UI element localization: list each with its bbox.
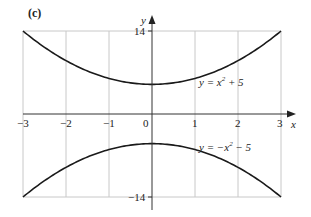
- y-axis-arrow-icon: [149, 15, 156, 24]
- y-tick-label-bottom: −14: [128, 191, 146, 203]
- x-tick-label: −2: [60, 117, 72, 129]
- x-tick-label: −1: [103, 117, 115, 129]
- eq-lower-rest: − 5: [233, 141, 252, 153]
- eq-upper-rest: + 5: [225, 76, 244, 88]
- panel-label: (c): [28, 6, 41, 20]
- eq-upper-base: y = x: [198, 76, 222, 88]
- equation-upper: y = x2 + 5: [198, 75, 244, 88]
- x-tick-label: −3: [17, 117, 29, 129]
- x-tick-label: 3: [277, 117, 283, 129]
- x-tick-label: 2: [235, 117, 241, 129]
- x-axis-arrow-icon: [287, 111, 296, 118]
- x-tick-label: 1: [192, 117, 198, 129]
- eq-lower-base: y = −x: [198, 141, 229, 153]
- chart: (c) y x 14 −14 −3 −2 −1 0 1 2 3 y = x2 +…: [0, 0, 311, 217]
- x-axis-label: x: [290, 118, 296, 130]
- x-tick-label: 0: [143, 117, 149, 129]
- equation-lower: y = −x2 − 5: [198, 140, 252, 153]
- y-tick-label-top: 14: [134, 25, 146, 37]
